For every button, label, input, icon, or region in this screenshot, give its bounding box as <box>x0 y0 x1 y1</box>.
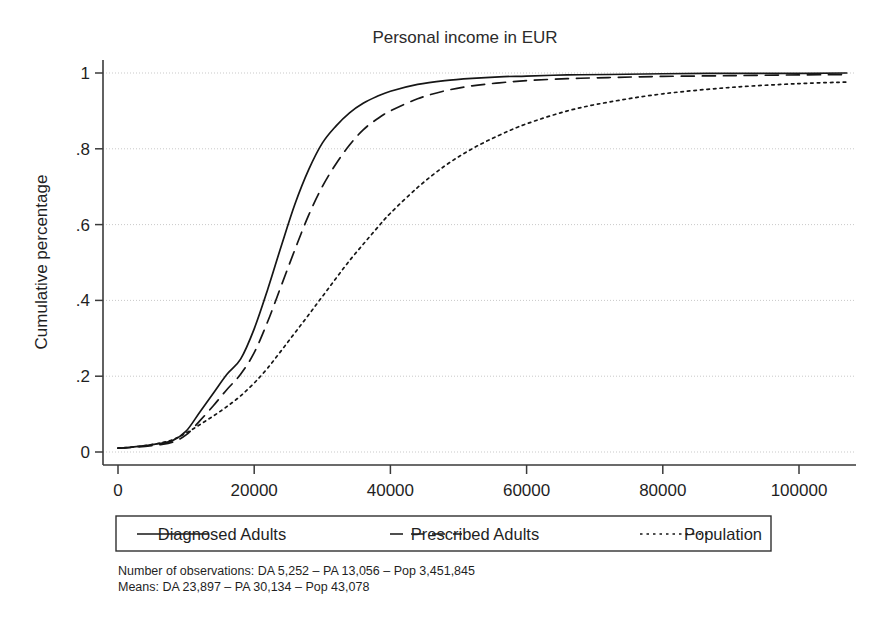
data-series-group <box>118 73 847 448</box>
y-tick-label: .6 <box>76 216 90 235</box>
legend-label-diagnosed-adults: Diagnosed Adults <box>158 525 286 543</box>
y-tick-label: .4 <box>76 291 90 310</box>
note-observations: Number of observations: DA 5,252 – PA 13… <box>118 564 475 578</box>
x-axis-ticks-group: 020000400006000080000100000 <box>113 465 827 500</box>
y-tick-label: 0 <box>81 443 90 462</box>
x-tick-label: 80000 <box>639 481 686 500</box>
x-tick-label: 40000 <box>367 481 414 500</box>
y-axis-ticks-group: 0.2.4.6.81 <box>76 64 103 462</box>
chart-legend: Diagnosed AdultsPrescribed AdultsPopulat… <box>116 516 771 551</box>
series-line-prescribed-adults <box>118 75 847 449</box>
note-means: Means: DA 23,897 – PA 30,134 – Pop 43,07… <box>118 580 369 594</box>
y-axis-title: Cumulative percentage <box>32 175 51 350</box>
x-tick-label: 100000 <box>771 481 828 500</box>
x-tick-label: 60000 <box>503 481 550 500</box>
x-tick-label: 20000 <box>231 481 278 500</box>
y-tick-label: .2 <box>76 367 90 386</box>
y-tick-label: .8 <box>76 140 90 159</box>
figure-container: Personal income in EUR 0.2.4.6.81 020000… <box>0 0 890 634</box>
series-line-diagnosed-adults <box>118 73 847 448</box>
y-tick-label: 1 <box>81 64 90 83</box>
cumulative-distribution-chart: Personal income in EUR 0.2.4.6.81 020000… <box>0 0 890 634</box>
gridlines-group <box>103 73 856 452</box>
x-tick-label: 0 <box>113 481 122 500</box>
legend-label-prescribed-adults: Prescribed Adults <box>411 525 539 543</box>
chart-notes: Number of observations: DA 5,252 – PA 13… <box>118 564 475 594</box>
chart-title: Personal income in EUR <box>372 28 557 47</box>
series-line-population <box>118 82 847 448</box>
legend-label-population: Population <box>684 525 762 543</box>
